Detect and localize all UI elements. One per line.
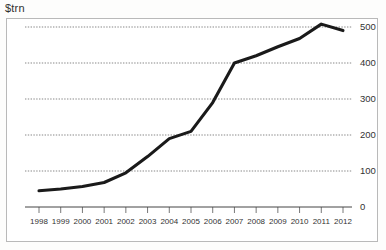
x-axis-tick-label: 2005 [182, 217, 200, 226]
chart-figure: $trn 0100200300400500 199819992000200120… [0, 0, 386, 250]
x-axis-tick-label: 2010 [291, 217, 309, 226]
x-axis-tick-labels: 1998199920002001200220032004200520062007… [30, 217, 352, 226]
y-axis-tick-labels: 0100200300400500 [360, 21, 376, 212]
x-axis-tick-label: 2001 [95, 217, 113, 226]
data-series-line [39, 24, 343, 191]
y-axis-tick-label: 300 [360, 93, 376, 104]
y-axis-tick-label: 200 [360, 129, 376, 140]
x-axis-tick-label: 2000 [74, 217, 92, 226]
x-axis-tick-label: 2008 [247, 217, 265, 226]
x-axis-ticks [39, 207, 343, 213]
x-axis-tick-label: 1998 [30, 217, 48, 226]
y-axis-tick-label: 0 [360, 201, 365, 212]
x-axis-tick-label: 2012 [334, 217, 352, 226]
line-chart: 0100200300400500 19981999200020012002200… [0, 0, 386, 250]
x-axis-tick-label: 2007 [226, 217, 244, 226]
x-axis-tick-label: 1999 [52, 217, 70, 226]
x-axis-tick-label: 2003 [139, 217, 157, 226]
y-axis-tick-label: 500 [360, 21, 376, 32]
x-axis-tick-label: 2002 [117, 217, 135, 226]
gridlines [25, 27, 352, 171]
x-axis-tick-label: 2004 [160, 217, 178, 226]
y-axis-tick-label: 400 [360, 57, 376, 68]
x-axis-tick-label: 2006 [204, 217, 222, 226]
y-axis-tick-label: 100 [360, 165, 376, 176]
x-axis-tick-label: 2011 [313, 217, 331, 226]
series-polyline [39, 24, 343, 191]
x-axis-tick-label: 2009 [269, 217, 287, 226]
